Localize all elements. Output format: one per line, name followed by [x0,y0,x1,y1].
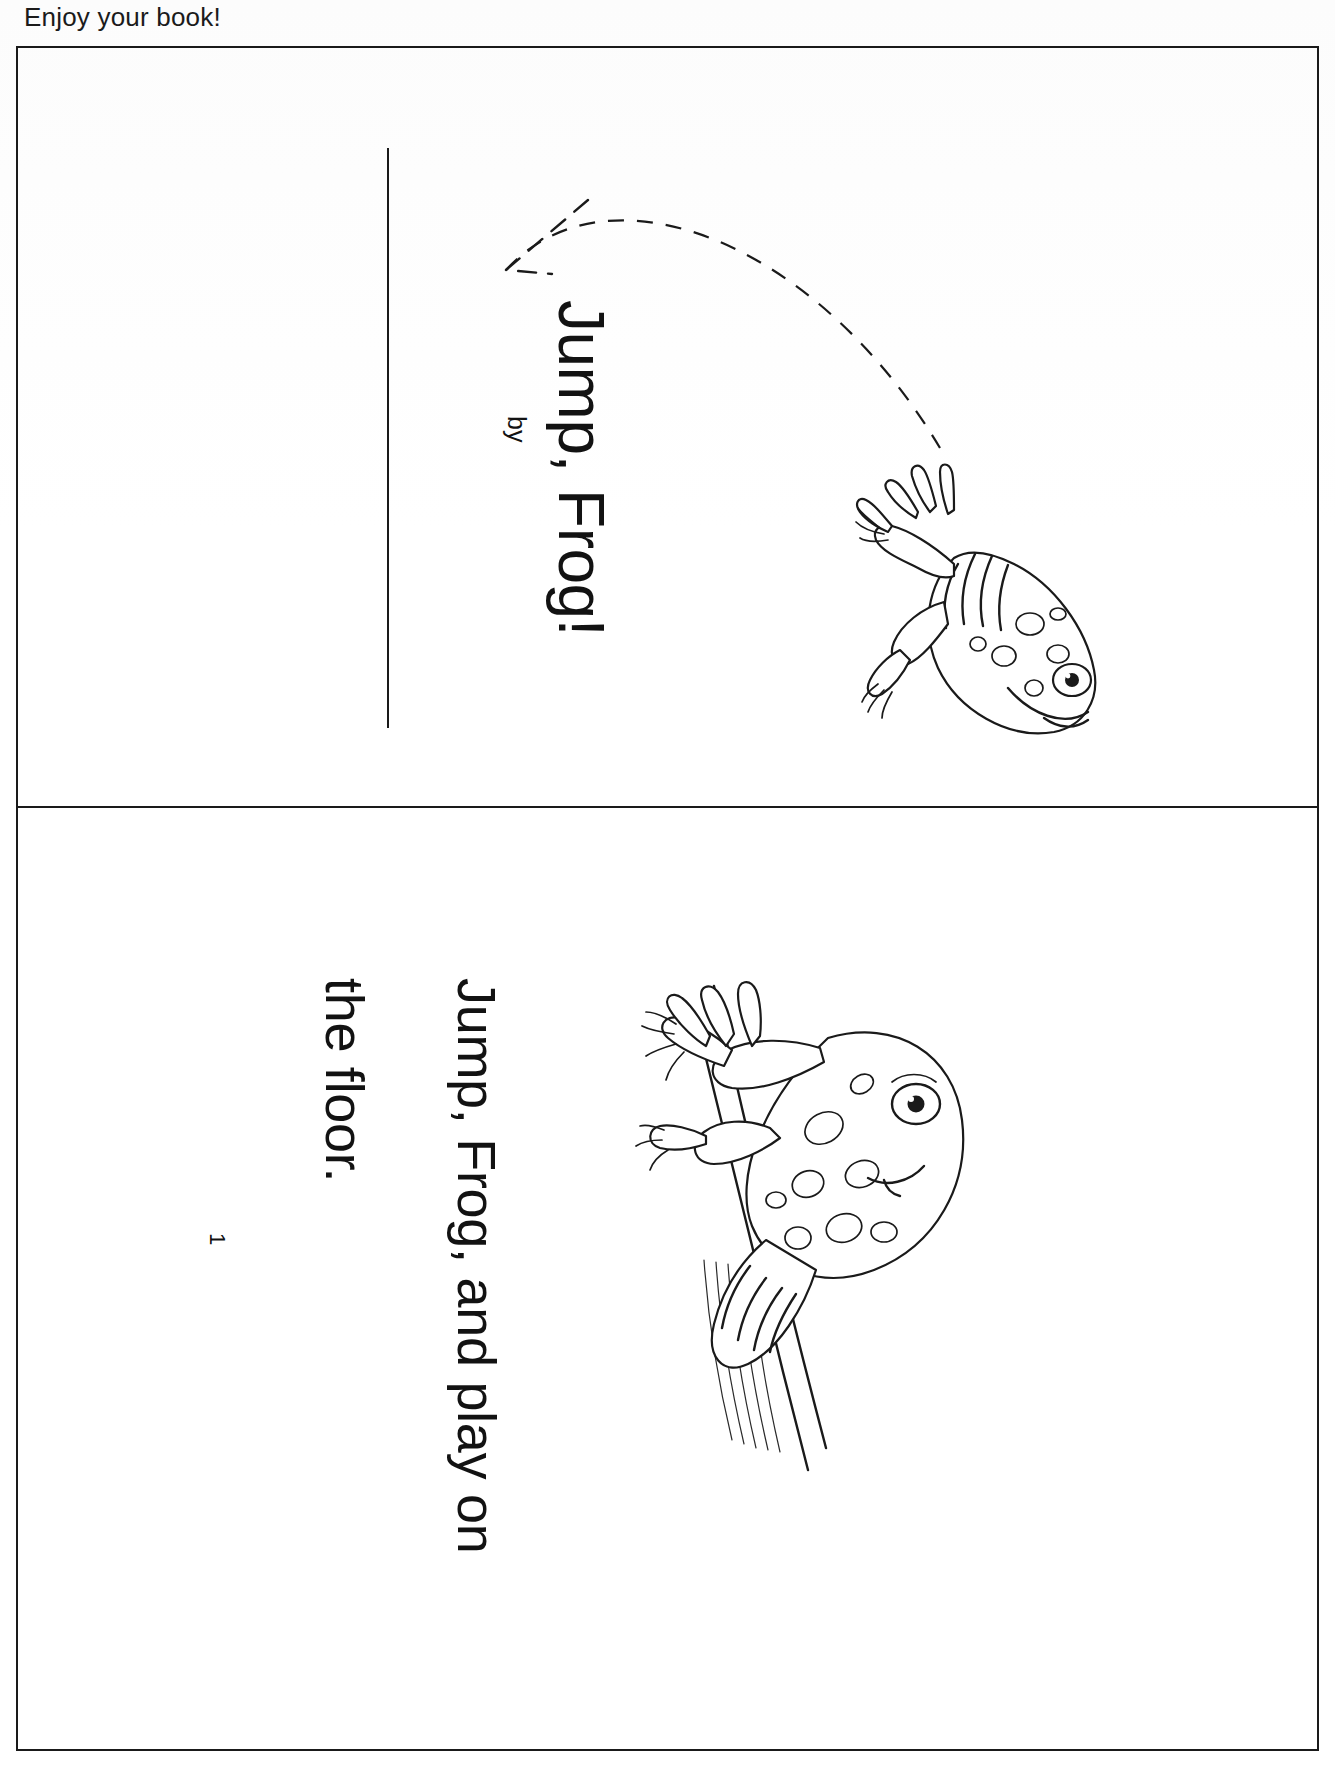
booklet-frame: Jump, Frog! by [16,46,1319,1751]
scanned-sheet: Enjoy your book! Jump, Frog! by [0,0,1335,1769]
header-note: Enjoy your book! [24,2,221,33]
frog-illustration-cover [848,378,1108,778]
booklet-page-cover: Jump, Frog! by [18,48,1317,808]
page-number: 1 [204,1233,230,1245]
author-signature-rule [387,148,389,728]
page1-text-line-1: Jump, Frog, and play on [446,978,508,1553]
booklet-page-1: Jump, Frog, and play on the floor. 1 [18,808,1317,1749]
frog-illustration-page-1 [608,978,1028,1538]
page1-text-line-2: the floor. [314,978,376,1182]
